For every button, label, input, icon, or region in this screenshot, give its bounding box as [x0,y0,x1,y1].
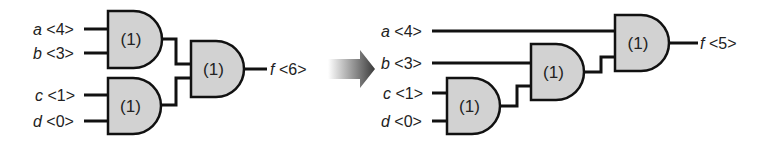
right-circuit-chained: a <4>b <3>c <1>d <0>(1)(1)(1)f <5> [381,15,736,134]
left-circuit-balanced: a <4>b <3>c <1>d <0>(1)(1)(1)f <6> [33,11,306,134]
gate-delay-label: (1) [203,60,224,79]
right-arrow-icon [328,50,375,88]
connection-wire [500,86,531,106]
and-gate-L1: (1) [108,11,162,68]
and-gate-L2: (1) [108,78,161,134]
and-gate-R1: (1) [447,78,500,134]
input-label-b: b <3> [33,45,74,62]
gate-delay-label: (1) [459,97,480,116]
circuit-diagram: a <4>b <3>c <1>d <0>(1)(1)(1)f <6> a <4>… [0,0,774,144]
connection-wire [161,78,191,105]
gate-delay-label: (1) [120,97,141,116]
input-label-b: b <3> [381,55,422,72]
input-label-a: a <4> [33,21,74,38]
and-gate-L3: (1) [191,41,244,97]
gate-delay-label: (1) [628,34,649,53]
input-label-d: d <0> [33,113,74,130]
output-label-f: f <6> [270,61,306,78]
input-label-a: a <4> [381,23,422,40]
gate-delay-label: (1) [121,30,142,49]
transform-arrow [328,50,375,88]
gate-delay-label: (1) [543,63,564,82]
output-label-f: f <5> [700,35,736,52]
and-gate-R3: (1) [615,15,669,71]
input-label-c: c <1> [383,85,423,102]
connection-wire [584,57,615,72]
and-gate-R2: (1) [531,44,584,100]
input-label-c: c <1> [35,87,75,104]
connection-wire [162,39,191,64]
input-label-d: d <0> [381,113,422,130]
